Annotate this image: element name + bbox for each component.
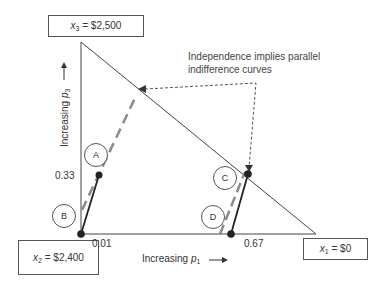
- annotation-line-2: indifference curves: [188, 63, 320, 76]
- point-label-d: D: [201, 205, 225, 229]
- y-axis-sub: 3: [64, 89, 71, 93]
- tick-0-67: 0.67: [244, 238, 263, 249]
- y-axis-text: Increasing: [59, 98, 70, 147]
- point-label-b: B: [52, 204, 76, 228]
- x1-value: = $0: [329, 243, 352, 254]
- dot-a: [96, 172, 103, 179]
- dot-b: [77, 230, 85, 238]
- x-axis-sub: 1: [196, 258, 200, 265]
- p3-arrowhead-icon: [61, 62, 67, 68]
- y-axis-label: Increasing p3: [59, 89, 71, 147]
- x3-value: = $2,500: [79, 20, 121, 31]
- x-axis-text: Increasing: [142, 253, 191, 264]
- annotation-text: Independence implies parallel indifferen…: [188, 50, 320, 76]
- y-axis-var: p: [59, 93, 70, 99]
- vertex-box-x2: x2 = $2,400: [18, 240, 99, 275]
- tick-0-33: 0.33: [55, 170, 74, 181]
- annotation-arrow: [145, 83, 256, 168]
- tick-0-01: 0.01: [92, 238, 111, 249]
- point-label-a: A: [84, 143, 108, 167]
- p1-arrowhead-icon: [222, 257, 228, 263]
- vertex-box-x1: x1 = $0: [303, 238, 368, 260]
- vertex-box-x3: x3 = $2,500: [48, 15, 144, 37]
- point-label-c: C: [213, 166, 237, 190]
- x-axis-label: Increasing p1: [142, 253, 200, 265]
- dot-c: [244, 170, 252, 178]
- annotation-line-1: Independence implies parallel: [188, 50, 320, 63]
- dot-d: [227, 230, 235, 238]
- x2-value: = $2,400: [42, 252, 84, 263]
